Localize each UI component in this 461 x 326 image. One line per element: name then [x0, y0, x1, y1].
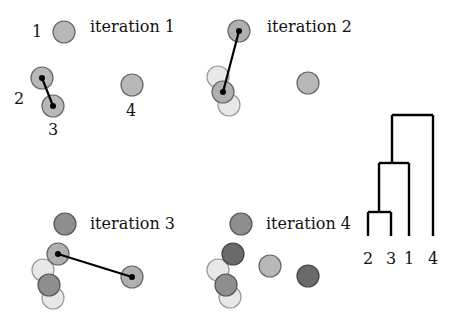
link-endpoint-dot [39, 75, 45, 81]
dendrogram-leaf-label: 3 [386, 249, 396, 268]
data-point-circle [215, 274, 237, 296]
iteration-panel-3: iteration 3 [32, 213, 175, 309]
data-point-circle [222, 243, 244, 265]
data-point-circle [38, 274, 60, 296]
iteration-panel-2: iteration 2 [207, 17, 352, 116]
iteration-title: iteration 3 [90, 214, 175, 233]
merge-link-line [58, 254, 132, 277]
iteration-title: iteration 2 [267, 17, 352, 36]
merge-link-line [223, 31, 239, 92]
data-point-circle [259, 255, 281, 277]
dendrogram-leaf-label: 2 [363, 249, 373, 268]
iteration-title: iteration 1 [90, 17, 175, 36]
dendrogram-leaf-label: 4 [428, 249, 438, 268]
dendrogram-leaf-label: 1 [404, 249, 414, 268]
iteration-panel-1: iteration 11234 [14, 17, 175, 139]
point-label: 1 [32, 22, 42, 41]
iteration-panel-4: iteration 4 [207, 213, 351, 308]
data-point-circle [53, 21, 75, 43]
point-label: 2 [14, 89, 24, 108]
point-label: 3 [48, 120, 58, 139]
data-point-circle [297, 265, 319, 287]
data-point-circle [54, 213, 76, 235]
hierarchical-clustering-diagram: iteration 11234iteration 2iteration 3ite… [0, 0, 461, 326]
link-endpoint-dot [55, 251, 61, 257]
data-point-circle [121, 74, 143, 96]
diagram-canvas: iteration 11234iteration 2iteration 3ite… [0, 0, 461, 326]
link-endpoint-dot [220, 89, 226, 95]
link-endpoint-dot [236, 28, 242, 34]
link-endpoint-dot [50, 103, 56, 109]
point-label: 4 [126, 101, 136, 120]
dendrogram: 2314 [363, 115, 438, 268]
data-point-circle [230, 213, 252, 235]
link-endpoint-dot [129, 274, 135, 280]
iteration-title: iteration 4 [266, 214, 351, 233]
data-point-circle [297, 72, 319, 94]
